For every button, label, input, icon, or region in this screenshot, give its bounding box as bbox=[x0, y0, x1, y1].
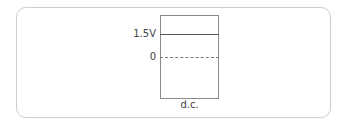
zero-reference-line bbox=[160, 57, 219, 58]
voltage-label-zero: 0 bbox=[116, 51, 156, 63]
voltage-label-1-5v: 1.5V bbox=[116, 28, 156, 40]
x-axis-label: d.c. bbox=[160, 99, 219, 111]
dc-voltage-line bbox=[160, 34, 219, 35]
